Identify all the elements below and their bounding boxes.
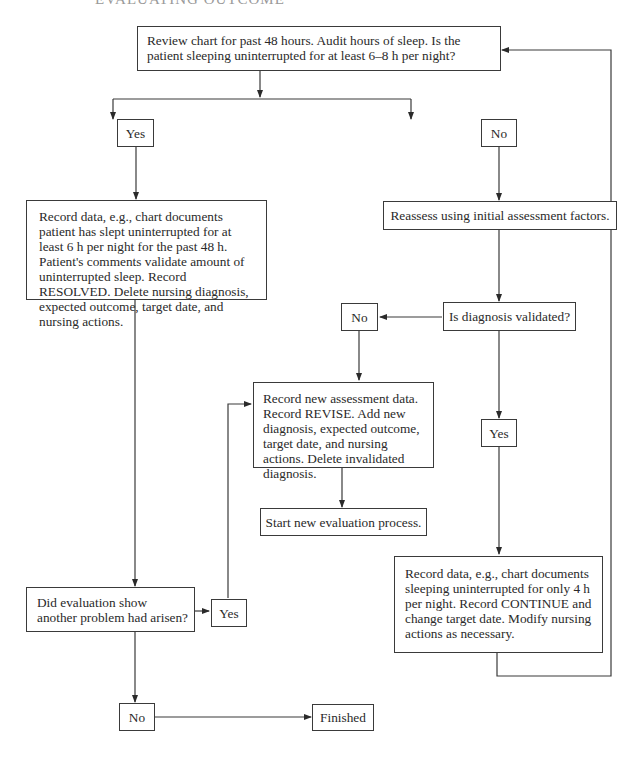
- continue-text: Record data, e.g., chart documents sleep…: [405, 566, 596, 641]
- finished-text: Finished: [320, 710, 366, 725]
- no-label: No: [491, 126, 507, 141]
- new-evaluation-box: Start new evaluation process.: [260, 508, 427, 536]
- start-review-box: Review chart for past 48 hours. Audit ho…: [137, 26, 501, 71]
- diagnosis-validated-text: Is diagnosis validated?: [449, 309, 570, 324]
- no-label: No: [129, 710, 145, 725]
- new-evaluation-text: Start new evaluation process.: [266, 515, 422, 530]
- resolved-box: Record data, e.g., chart documents patie…: [26, 200, 267, 300]
- revise-box: Record new assessment data. Record REVIS…: [253, 382, 434, 468]
- another-problem-box: Did evaluation show another problem had …: [26, 587, 195, 632]
- reassess-box: Reassess using initial assessment factor…: [383, 201, 617, 230]
- continue-box: Record data, e.g., chart documents sleep…: [394, 556, 603, 653]
- diagnosis-validated-box: Is diagnosis validated?: [443, 302, 576, 331]
- yes-node-2: Yes: [481, 419, 517, 447]
- no-node-3: No: [119, 703, 155, 731]
- another-problem-text: Did evaluation show another problem had …: [37, 595, 188, 625]
- start-review-text: Review chart for past 48 hours. Audit ho…: [147, 33, 500, 63]
- yes-node-3: Yes: [211, 599, 247, 627]
- no-label: No: [351, 310, 367, 325]
- no-node-2: No: [341, 303, 378, 331]
- finished-box: Finished: [312, 704, 374, 731]
- resolved-text: Record data, e.g., chart documents patie…: [39, 209, 258, 329]
- no-node-1: No: [481, 119, 517, 147]
- yes-node-1: Yes: [117, 119, 154, 147]
- yes-label: Yes: [219, 606, 238, 621]
- revise-text: Record new assessment data. Record REVIS…: [263, 391, 427, 481]
- yes-label: Yes: [126, 126, 145, 141]
- yes-label: Yes: [489, 426, 508, 441]
- reassess-text: Reassess using initial assessment factor…: [391, 208, 610, 223]
